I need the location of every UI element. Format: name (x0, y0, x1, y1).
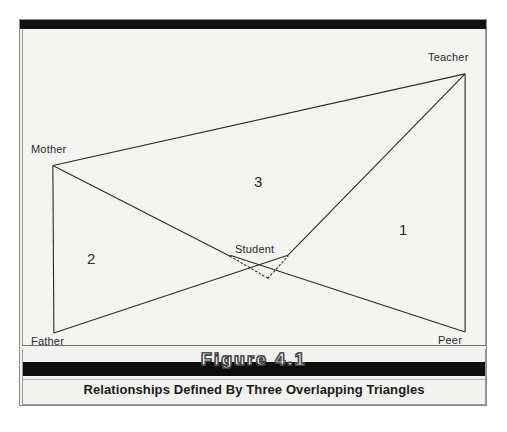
node-label-teacher: Teacher (428, 51, 469, 63)
figure-page: Mother Father Teacher Peer Student 1 2 3… (0, 0, 507, 432)
top-black-band (20, 20, 486, 29)
edge-student-dotted-left (230, 256, 268, 278)
region-label-3: 3 (254, 173, 263, 190)
edge-mother-father (53, 166, 54, 333)
node-label-peer: Peer (438, 334, 462, 346)
edge-mother-teacher (53, 74, 465, 166)
node-label-father: Father (31, 335, 64, 347)
edge-peer-student (230, 255, 465, 332)
region-label-2: 2 (87, 250, 96, 267)
edge-teacher-student (287, 74, 465, 256)
edge-student-dotted-right (268, 256, 288, 278)
figure-frame: Mother Father Teacher Peer Student 1 2 3… (19, 19, 487, 406)
node-label-student: Student (235, 243, 274, 255)
diagram-panel: Mother Father Teacher Peer Student 1 2 3 (22, 29, 486, 346)
region-label-1: 1 (399, 221, 408, 238)
caption-block: Figure 4.1 Relationships Defined By Thre… (22, 349, 486, 405)
caption-divider (23, 379, 485, 380)
edge-mother-student (53, 166, 230, 257)
figure-number: Figure 4.1 (23, 350, 485, 370)
node-label-mother: Mother (31, 143, 66, 155)
figure-caption: Relationships Defined By Three Overlappi… (23, 382, 485, 397)
